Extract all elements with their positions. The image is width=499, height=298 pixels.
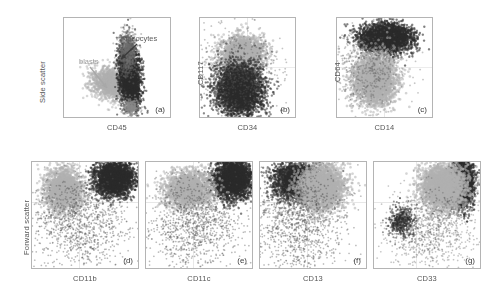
annotation-arrows [0, 0, 499, 298]
flow-cytometry-figure: (a)CD45(b)CD34(c)CD14(d)CD11b(e)CD11c(f)… [0, 0, 499, 298]
arrow-monocytes [121, 44, 137, 59]
arrow-blasts [90, 67, 107, 88]
